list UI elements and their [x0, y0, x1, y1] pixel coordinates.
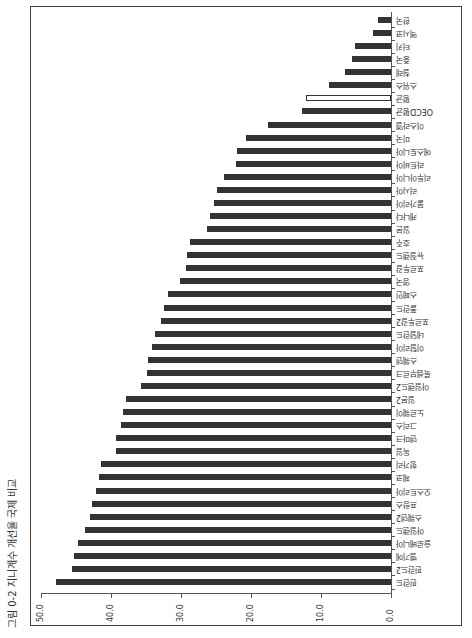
category-label: 아일랜드	[396, 524, 456, 536]
category-label: 러시아	[396, 184, 456, 196]
bar	[101, 461, 391, 467]
bar	[217, 187, 391, 193]
category-tick	[391, 589, 395, 590]
category-label: 뉴질랜드	[396, 249, 456, 261]
bar	[85, 527, 391, 533]
value-axis	[41, 593, 391, 594]
axis-tick	[391, 593, 392, 598]
bar	[168, 291, 391, 297]
category-tick	[391, 419, 395, 420]
category-tick	[391, 144, 395, 145]
bar	[161, 318, 391, 324]
bar	[155, 331, 391, 337]
bar	[164, 305, 391, 311]
category-tick	[391, 66, 395, 67]
category-label: 네덜란드	[396, 328, 456, 340]
bar	[56, 579, 391, 585]
category-label: 한국	[396, 14, 456, 26]
axis-tick-label: 40.0	[106, 600, 118, 624]
category-label: 독일	[396, 445, 456, 457]
category-tick	[391, 432, 395, 433]
category-tick	[391, 275, 395, 276]
bar	[237, 148, 391, 154]
bar	[187, 252, 391, 258]
figure-title-text: 그림 0-2 지니계수 개선율 국제 비교	[4, 479, 19, 628]
category-tick	[391, 379, 395, 380]
category-label: 슬로베니아	[396, 537, 456, 549]
category-tick	[391, 562, 395, 563]
bar	[78, 540, 391, 546]
category-tick	[391, 183, 395, 184]
category-label: 칠레	[396, 66, 456, 78]
category-label: 오스트리아	[396, 485, 456, 497]
category-tick	[391, 340, 395, 341]
bar	[99, 474, 391, 480]
bar	[207, 226, 391, 232]
category-tick	[391, 196, 395, 197]
bar	[214, 200, 391, 206]
category-axis	[391, 12, 392, 594]
bar	[306, 95, 391, 101]
category-label: 체코	[396, 471, 456, 483]
category-tick	[391, 170, 395, 171]
category-tick	[391, 575, 395, 576]
category-tick	[391, 288, 395, 289]
axis-tick	[181, 593, 182, 598]
bar	[246, 135, 391, 141]
category-tick	[391, 262, 395, 263]
axis-tick	[41, 593, 42, 598]
category-tick	[391, 392, 395, 393]
category-label: 핀란드2	[396, 563, 456, 575]
bar	[152, 344, 391, 350]
category-label: 헝가리	[396, 458, 456, 470]
category-tick	[391, 536, 395, 537]
category-label: 포르투갈2	[396, 315, 456, 327]
category-tick	[391, 510, 395, 511]
bar	[186, 265, 391, 271]
category-tick	[391, 353, 395, 354]
category-tick	[391, 118, 395, 119]
category-label: 이스라엘	[396, 119, 456, 131]
category-label: 그리스	[396, 419, 456, 431]
bar	[210, 213, 391, 219]
category-label: 영국	[396, 275, 456, 287]
category-tick	[391, 549, 395, 550]
bar	[329, 82, 391, 88]
category-tick	[391, 53, 395, 54]
category-label: 벨기에	[396, 550, 456, 562]
category-label: 일본	[396, 223, 456, 235]
bar	[147, 370, 391, 376]
category-label: 핀란드	[396, 576, 456, 588]
category-label: 스위스	[396, 79, 456, 91]
bar	[74, 553, 391, 559]
category-tick	[391, 327, 395, 328]
bar	[92, 501, 391, 507]
category-tick	[391, 223, 395, 224]
category-label: 폴란드	[396, 302, 456, 314]
axis-tick-label: 20.0	[246, 600, 258, 624]
category-label: 스페인	[396, 288, 456, 300]
category-label: 중국	[396, 53, 456, 65]
category-label: 에스토니아	[396, 145, 456, 157]
category-tick	[391, 236, 395, 237]
bar	[352, 56, 391, 62]
category-tick	[391, 523, 395, 524]
axis-tick-label: 0.0	[386, 600, 398, 624]
category-tick	[391, 79, 395, 80]
category-label: 리투아니아	[396, 171, 456, 183]
axis-tick	[251, 593, 252, 598]
category-label: 멕시코	[396, 27, 456, 39]
bar	[72, 566, 391, 572]
category-label: 룩셈부르크	[396, 367, 456, 379]
category-label: 캐나다	[396, 210, 456, 222]
category-label: 프랑스	[396, 498, 456, 510]
category-tick	[391, 366, 395, 367]
bar	[190, 239, 391, 245]
category-tick	[391, 497, 395, 498]
category-tick	[391, 458, 395, 459]
category-tick	[391, 157, 395, 158]
axis-tick-label: 50.0	[36, 600, 48, 624]
category-label: 이탈리아	[396, 341, 456, 353]
bar	[116, 435, 391, 441]
axis-tick-label: 30.0	[176, 600, 188, 624]
